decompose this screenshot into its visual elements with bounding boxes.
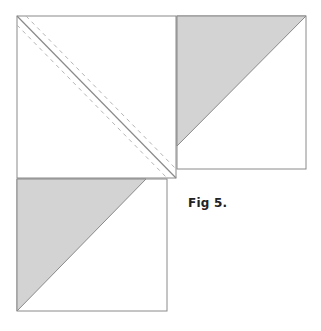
quilt-block-diagram [0, 0, 321, 331]
bottom-left-square [17, 179, 167, 311]
top-right-square [177, 16, 306, 169]
figure-caption: Fig 5. [188, 196, 227, 210]
top-left-square [17, 16, 176, 178]
